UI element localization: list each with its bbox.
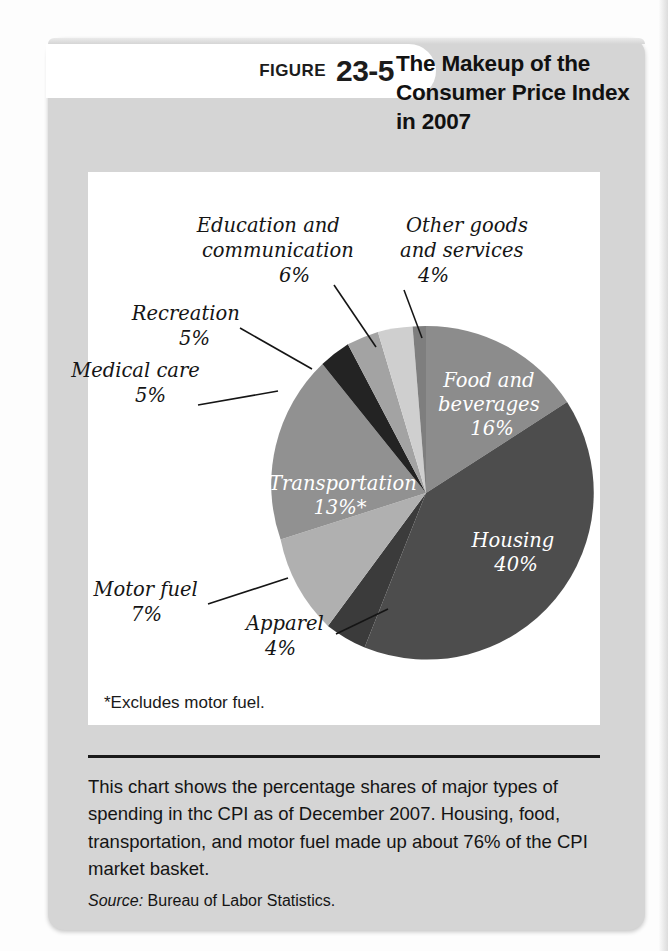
source-value: Bureau of Labor Statistics. xyxy=(148,892,336,909)
leader-line-education xyxy=(334,285,376,347)
figure-number-badge: Figure 23-5 xyxy=(46,44,436,98)
page-edge-shadow xyxy=(658,0,668,951)
caption-text: This chart shows the percentage shares o… xyxy=(88,773,608,883)
figure-card: Figure 23-5 The Makeup of the Consumer P… xyxy=(48,38,645,930)
page-backdrop: Figure 23-5 The Makeup of the Consumer P… xyxy=(0,0,668,951)
caption-divider xyxy=(88,755,600,758)
pie-label-medical-care: Medical care 5% xyxy=(70,359,206,407)
pie-label-apparel: Apparel 4% xyxy=(244,612,330,660)
source-label: Source: xyxy=(88,892,143,909)
leader-line-recreation xyxy=(240,328,312,369)
pie-label-motor-fuel: Motor fuel 7% xyxy=(92,578,204,626)
figure-title: The Makeup of the Consumer Price Index i… xyxy=(396,50,636,136)
leader-line-motor-fuel xyxy=(208,578,288,604)
chart-panel: Food and beverages 16% Housing 40% Trans… xyxy=(88,172,600,725)
caption-block: This chart shows the percentage shares o… xyxy=(88,773,608,910)
leader-line-medical-care xyxy=(198,391,278,405)
figure-label: Figure xyxy=(259,61,326,81)
pie-label-other-goods-and-services: Other goods and services 4% xyxy=(400,214,534,287)
pie-chart: Food and beverages 16% Housing 40% Trans… xyxy=(88,172,600,725)
pie-label-education-and-communication: Education and communication 6% xyxy=(196,214,360,287)
source-line: Source: Bureau of Labor Statistics. xyxy=(88,892,608,910)
figure-number: 23-5 xyxy=(336,54,394,88)
pie-label-recreation: Recreation 5% xyxy=(131,302,246,350)
chart-footnote: *Excludes motor fuel. xyxy=(104,693,265,713)
